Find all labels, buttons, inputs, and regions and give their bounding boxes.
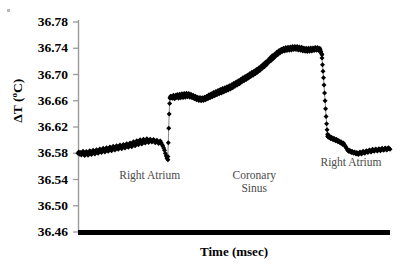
data-point-marker: [167, 111, 172, 116]
data-point-marker: [324, 114, 329, 119]
data-point-marker: [324, 121, 329, 126]
data-point-marker: [167, 101, 172, 106]
data-point-marker: [323, 106, 328, 111]
y-axis-tick-marks: [73, 22, 78, 232]
data-point-marker: [325, 127, 330, 132]
data-point-marker: [319, 56, 324, 61]
data-point-marker: [322, 83, 327, 88]
plot-area: [0, 0, 408, 271]
data-point-marker: [166, 140, 171, 145]
data-point-marker: [323, 98, 328, 103]
data-point-marker: [321, 75, 326, 80]
data-point-marker: [166, 126, 171, 131]
data-trace: [76, 44, 393, 162]
data-point-marker: [321, 69, 326, 74]
data-point-marker: [320, 62, 325, 67]
data-point-marker: [322, 90, 327, 95]
chart-figure: ΔT (oC) Time (msec) 36.4636.5036.5436.58…: [0, 0, 408, 271]
